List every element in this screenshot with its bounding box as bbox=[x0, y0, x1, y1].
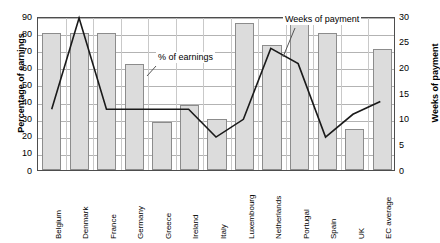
x-category-label: UK bbox=[358, 228, 366, 239]
y-tick-right-5: 5 bbox=[399, 141, 421, 150]
annotation-percent-of-earnings: % of earnings bbox=[156, 52, 215, 63]
y-tick-left-0: 0 bbox=[10, 167, 32, 176]
y-tick-left-10: 10 bbox=[10, 149, 32, 158]
x-category-label: Luxembourg bbox=[248, 195, 256, 239]
y-tick-right-0: 0 bbox=[399, 167, 421, 176]
annotation-weeks-of-payment: Weeks of payment bbox=[283, 14, 361, 25]
x-category-label: Greece bbox=[165, 213, 173, 239]
y-tick-right-30: 30 bbox=[399, 13, 421, 22]
y-tick-left-60: 60 bbox=[10, 64, 32, 73]
line-series bbox=[38, 18, 394, 170]
x-category-label: Belgium bbox=[55, 210, 63, 239]
y-axis-right-title: Weeks of payment bbox=[430, 8, 440, 158]
y-tick-left-20: 20 bbox=[10, 132, 32, 141]
x-category-label: Denmark bbox=[82, 207, 90, 239]
x-category-label: France bbox=[110, 214, 118, 239]
y-tick-left-30: 30 bbox=[10, 115, 32, 124]
line-path bbox=[52, 18, 381, 137]
x-category-label: Italy bbox=[220, 224, 228, 239]
y-tick-right-20: 20 bbox=[399, 64, 421, 73]
y-tick-right-25: 25 bbox=[399, 38, 421, 47]
y-tick-left-50: 50 bbox=[10, 81, 32, 90]
plot-area bbox=[37, 17, 395, 171]
x-category-label: EC average bbox=[385, 197, 393, 239]
x-category-label: Netherlands bbox=[275, 196, 283, 239]
x-category-label: Ireland bbox=[192, 215, 200, 239]
y-tick-left-80: 80 bbox=[10, 30, 32, 39]
y-tick-left-40: 40 bbox=[10, 98, 32, 107]
x-axis-category-labels: BelgiumDenmarkFranceGermanyGreeceIreland… bbox=[37, 173, 395, 243]
y-axis-right-ticks: 051015202530 bbox=[399, 0, 421, 243]
y-tick-right-10: 10 bbox=[399, 115, 421, 124]
x-category-label: Germany bbox=[137, 206, 145, 239]
y-tick-left-70: 70 bbox=[10, 47, 32, 56]
y-axis-left-ticks: 0102030405060708090 bbox=[10, 0, 32, 243]
x-category-label: Portugal bbox=[303, 209, 311, 239]
y-tick-right-15: 15 bbox=[399, 90, 421, 99]
x-category-label: Spain bbox=[330, 219, 338, 239]
y-tick-left-90: 90 bbox=[10, 13, 32, 22]
